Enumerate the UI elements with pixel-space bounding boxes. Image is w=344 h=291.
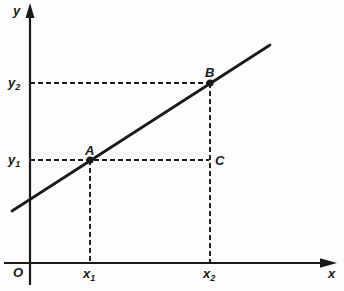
x-tick-label-x2: x2: [203, 267, 215, 280]
point-label-c: C: [215, 154, 224, 167]
x-tick-x2-subscript: 2: [210, 273, 215, 283]
diagram-canvas: [0, 0, 344, 291]
y-axis-label: y: [13, 4, 20, 17]
graph-line: [12, 45, 270, 211]
point-label-a: A: [85, 144, 94, 157]
y-tick-label-y1: y1: [8, 153, 20, 166]
slope-diagram-figure: y x O y2 y1 x1 x2 A B C: [0, 0, 344, 291]
x-axis-label: x: [328, 267, 335, 280]
origin-label: O: [13, 266, 23, 279]
y-tick-y1-subscript: 1: [15, 159, 20, 169]
x-tick-label-x1: x1: [83, 267, 95, 280]
point-label-b: B: [205, 66, 214, 79]
y-tick-label-y2: y2: [8, 76, 20, 89]
x-tick-x1-subscript: 1: [90, 273, 95, 283]
y-axis-arrowhead: [26, 3, 35, 18]
y-tick-y2-subscript: 2: [15, 82, 20, 92]
point-b-dot: [206, 79, 213, 86]
